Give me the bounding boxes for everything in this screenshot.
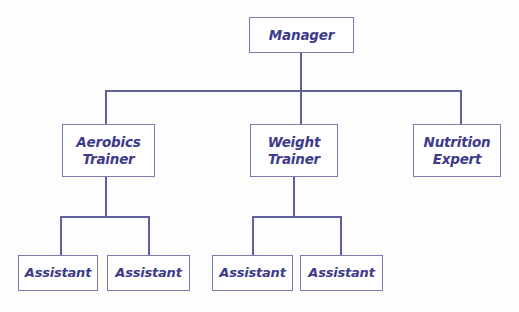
- connector-drop-assistant4: [340, 216, 342, 255]
- connector-drop-nutrition: [460, 90, 462, 124]
- node-weight-trainer-label: Weight Trainer: [266, 134, 322, 167]
- connector-drop-aerobics: [105, 90, 107, 124]
- node-assistant-2-label: Assistant: [113, 265, 183, 281]
- connector-weight-bus: [252, 216, 342, 218]
- node-assistant-2[interactable]: Assistant: [107, 255, 190, 291]
- node-weight-trainer[interactable]: Weight Trainer: [250, 124, 338, 177]
- node-assistant-3[interactable]: Assistant: [212, 255, 293, 291]
- connector-manager-stem: [300, 52, 302, 92]
- connector-aerobics-stem: [105, 177, 107, 217]
- node-manager-label: Manager: [267, 27, 336, 43]
- node-nutrition-expert-label: Nutrition Expert: [422, 134, 493, 167]
- connector-drop-assistant3: [252, 216, 254, 255]
- connector-weight-stem: [293, 177, 295, 217]
- node-assistant-3-label: Assistant: [217, 265, 287, 281]
- node-nutrition-expert[interactable]: Nutrition Expert: [413, 124, 501, 177]
- node-aerobics-trainer[interactable]: Aerobics Trainer: [62, 124, 155, 177]
- connector-level2-bus: [105, 90, 462, 92]
- node-assistant-1[interactable]: Assistant: [18, 255, 98, 291]
- connector-drop-weight: [300, 90, 302, 124]
- node-assistant-4-label: Assistant: [306, 265, 376, 281]
- connector-drop-assistant2: [148, 216, 150, 255]
- node-assistant-1-label: Assistant: [23, 265, 93, 281]
- node-assistant-4[interactable]: Assistant: [300, 255, 383, 291]
- org-chart: Manager Aerobics Trainer Weight Trainer …: [0, 0, 519, 312]
- connector-aerobics-bus: [60, 216, 150, 218]
- connector-drop-assistant1: [60, 216, 62, 255]
- node-manager[interactable]: Manager: [249, 17, 354, 53]
- node-aerobics-trainer-label: Aerobics Trainer: [74, 134, 142, 167]
